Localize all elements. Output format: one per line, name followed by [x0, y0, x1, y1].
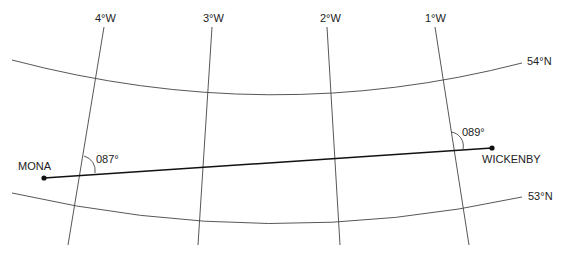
wickenby-point — [489, 145, 494, 150]
meridian-2w — [327, 27, 340, 245]
wickenby-label: WICKENBY — [482, 154, 541, 165]
meridian-label-4w: 4°W — [95, 13, 116, 24]
angle-arc-mona — [84, 156, 95, 173]
meridian-label-1w: 1°W — [425, 13, 446, 24]
meridian-4w — [68, 27, 104, 245]
parallel-53n — [12, 193, 522, 224]
angle-label-wickenby: 089° — [462, 127, 485, 138]
mona-label: MONA — [18, 161, 51, 172]
parallel-label-53n: 53°N — [528, 191, 553, 202]
meridian-label-3w: 3°W — [203, 13, 224, 24]
parallel-54n — [12, 60, 522, 95]
mona-point — [41, 175, 46, 180]
meridian-3w — [198, 27, 212, 245]
angle-label-mona: 087° — [96, 154, 119, 165]
meridian-label-2w: 2°W — [320, 13, 341, 24]
parallel-label-54n: 54°N — [527, 56, 552, 67]
